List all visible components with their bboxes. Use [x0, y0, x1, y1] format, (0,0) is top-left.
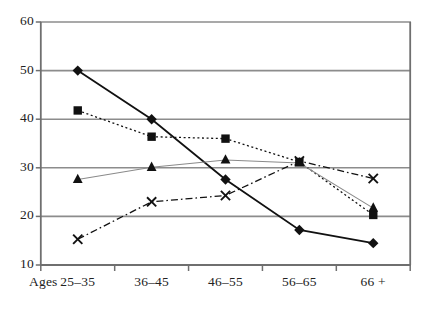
- x-tick-label: 36–45: [115, 274, 189, 290]
- series-square-marker: [74, 106, 82, 114]
- y-tick-label: 40: [8, 110, 34, 126]
- series-triangle-marker: [73, 174, 83, 183]
- y-tick-label: 30: [8, 159, 34, 175]
- y-tick-label: 10: [8, 256, 34, 272]
- series-cross-marker: [73, 235, 82, 244]
- series-diamond-marker: [73, 65, 83, 75]
- series-cross-marker: [147, 197, 156, 206]
- y-tick-label: 20: [8, 207, 34, 223]
- series-cross-marker: [221, 191, 230, 200]
- series-cross: [73, 156, 378, 243]
- line-chart: 102030405060 25–3536–4546–5556–6566 + Ag…: [0, 0, 424, 336]
- x-axis-title: Ages: [29, 274, 58, 290]
- x-tick-label: 56–65: [262, 274, 336, 290]
- x-tick-label: 46–55: [189, 274, 263, 290]
- series-diamond-marker: [368, 238, 378, 248]
- x-tick-label: 66 +: [336, 274, 410, 290]
- data-series-layer: [73, 65, 379, 248]
- axis-frame: [40, 22, 411, 265]
- series-square-marker: [369, 211, 377, 219]
- y-tick-label: 50: [8, 62, 34, 78]
- series-diamond-marker: [294, 225, 304, 235]
- series-square-marker: [221, 134, 229, 142]
- series-cross-line: [78, 161, 374, 239]
- y-tick-label: 60: [8, 13, 34, 29]
- series-triangle-marker: [368, 202, 378, 211]
- series-triangle-marker: [221, 154, 231, 163]
- gridlines: [40, 22, 411, 265]
- series-triangle-marker: [147, 161, 157, 170]
- series-square-marker: [147, 132, 155, 140]
- series-cross-marker: [369, 174, 378, 183]
